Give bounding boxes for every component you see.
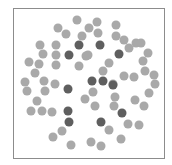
light-dot <box>112 32 121 41</box>
light-dot <box>23 87 32 96</box>
light-dot <box>110 102 119 111</box>
dark-dot <box>97 118 106 127</box>
dark-dot <box>64 107 73 116</box>
light-dot <box>111 93 120 102</box>
light-dot <box>125 44 134 53</box>
dark-dot <box>65 51 74 60</box>
light-dot <box>112 21 121 30</box>
dot-pattern <box>0 0 172 165</box>
dark-dot <box>99 77 108 86</box>
dark-dot <box>64 85 73 94</box>
light-dot <box>137 39 146 48</box>
light-dot <box>54 24 63 33</box>
light-dot <box>52 51 61 60</box>
light-dot <box>31 69 40 78</box>
light-dot <box>91 102 100 111</box>
light-dot <box>35 60 44 69</box>
light-dot <box>82 52 91 61</box>
light-dot <box>117 135 126 144</box>
light-dot <box>94 29 103 38</box>
light-dot <box>97 142 106 151</box>
light-dot <box>75 62 84 71</box>
light-dot <box>58 127 67 136</box>
light-dot <box>38 107 47 116</box>
light-dot <box>48 108 57 117</box>
light-dot <box>40 77 49 86</box>
light-dot <box>130 73 139 82</box>
dark-dot <box>109 81 118 90</box>
light-dot <box>131 96 140 105</box>
light-dot <box>25 58 34 67</box>
dark-dot <box>65 118 74 127</box>
light-dot <box>99 67 108 76</box>
light-dot <box>41 87 50 96</box>
light-dot <box>27 107 36 116</box>
light-dot <box>87 138 96 147</box>
light-dot <box>140 102 149 111</box>
light-dot <box>145 89 154 98</box>
dark-dot <box>75 41 84 50</box>
light-dot <box>78 32 87 41</box>
light-dot <box>67 141 76 150</box>
dark-dot <box>96 41 105 50</box>
light-dot <box>62 30 71 39</box>
light-dot <box>52 41 61 50</box>
light-dot <box>151 80 160 89</box>
light-dot <box>36 41 45 50</box>
dark-dot <box>88 77 97 86</box>
dark-dot <box>115 50 124 59</box>
light-dot <box>105 59 114 68</box>
light-dot <box>52 61 61 70</box>
light-dot <box>93 18 102 27</box>
light-dot <box>120 36 129 45</box>
light-dot <box>120 72 129 81</box>
dark-dot <box>118 109 127 118</box>
light-dot <box>150 71 159 80</box>
light-dot <box>144 49 153 58</box>
light-dot <box>51 80 60 89</box>
light-dot <box>49 133 58 142</box>
light-dot <box>124 120 133 129</box>
light-dot <box>85 24 94 33</box>
light-dot <box>89 88 98 97</box>
light-dot <box>139 57 148 66</box>
light-dot <box>73 16 82 25</box>
light-dot <box>105 126 114 135</box>
light-dot <box>81 95 90 104</box>
light-dot <box>33 97 42 106</box>
light-dot <box>21 78 30 87</box>
light-dot <box>135 121 144 130</box>
light-dot <box>141 67 150 76</box>
light-dot <box>39 50 48 59</box>
